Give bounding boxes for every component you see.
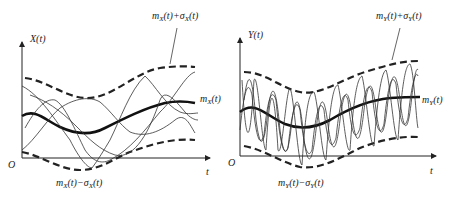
left-upper-envelope <box>25 66 195 98</box>
left-lower-label: mX(t)−σX(t) <box>56 177 103 190</box>
left-mean-curve <box>22 101 195 133</box>
right-origin-label: O <box>228 157 235 168</box>
right-panel <box>240 28 436 167</box>
left-upper-label: mX(t)+σX(t) <box>152 10 199 23</box>
right-mean-label: mY(t) <box>422 94 443 107</box>
right-x-axis-label: t <box>430 165 433 176</box>
right-upper-envelope <box>244 61 418 93</box>
right-upper-label: mY(t)+σY(t) <box>376 10 422 23</box>
left-lower-envelope <box>22 140 195 170</box>
right-upper-leader <box>392 28 400 60</box>
left-y-axis-label: X(t) <box>29 33 46 45</box>
right-lower-label: mY(t)−σY(t) <box>278 177 324 190</box>
right-sample-paths <box>240 64 418 165</box>
left-origin-label: O <box>8 159 15 170</box>
left-x-axis-label: t <box>206 166 209 177</box>
right-y-axis-label: Y(t) <box>248 29 264 41</box>
left-mean-label: mX(t) <box>200 93 222 106</box>
left-panel <box>22 28 210 170</box>
random-process-diagram: X(t) t O mX(t)+σX(t) mX(t) mX(t)−σX(t) Y… <box>0 0 451 198</box>
left-upper-leader <box>170 28 177 64</box>
